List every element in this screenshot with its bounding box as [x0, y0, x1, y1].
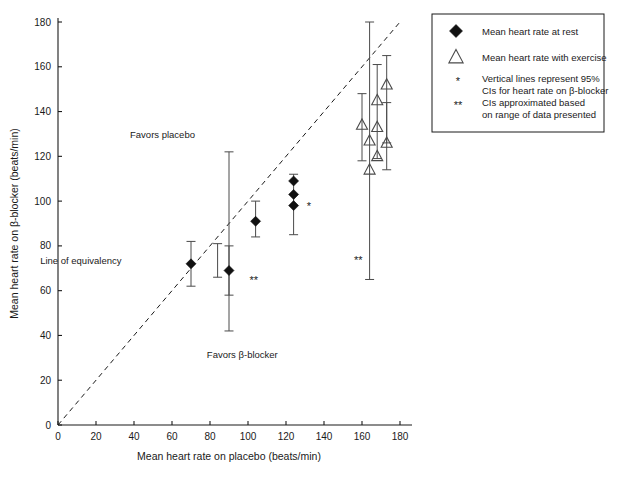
x-tick-label: 140 [316, 431, 333, 442]
y-tick-label: 60 [40, 285, 52, 296]
data-point-rest [186, 259, 196, 269]
scatter-plot: 0204060801001201401601800204060801001201… [0, 0, 617, 477]
legend-label-ci-line2: CIs for heart rate on β-blocker [482, 85, 608, 96]
y-tick-label: 40 [40, 330, 52, 341]
footnote-marker: * [307, 200, 312, 212]
y-tick-label: 120 [34, 151, 51, 162]
x-tick-label: 180 [392, 431, 409, 442]
x-tick-label: 20 [90, 431, 102, 442]
legend-label-ci-line1: Vertical lines represent 95% [482, 73, 600, 84]
y-tick-label: 0 [45, 420, 51, 431]
legend-label-rest: Mean heart rate at rest [482, 26, 578, 37]
x-tick-label: 80 [204, 431, 216, 442]
footnote-marker: ** [354, 254, 363, 266]
data-point-rest [224, 266, 234, 276]
legend-marker-double-star-icon: ** [454, 99, 463, 111]
data-point-rest [289, 176, 299, 186]
x-tick-label: 40 [128, 431, 140, 442]
plot-annotation: Line of equivalency [40, 255, 122, 266]
data-point-rest [251, 216, 261, 226]
data-point-rest [289, 201, 299, 211]
x-axis-title: Mean heart rate on placebo (beats/min) [137, 450, 321, 462]
x-tick-label: 0 [55, 431, 61, 442]
x-tick-label: 160 [354, 431, 371, 442]
legend-label-approx-line1: CIs approximated based [482, 97, 585, 108]
y-tick-label: 80 [40, 240, 52, 251]
legend-marker-triangle-icon [449, 50, 463, 63]
footnote-marker: ** [249, 274, 258, 286]
y-axis-title: Mean heart rate on β-blocker (beats/min) [8, 128, 20, 318]
y-tick-label: 160 [34, 61, 51, 72]
plot-annotation: Favors placebo [130, 129, 195, 140]
y-tick-label: 180 [34, 17, 51, 28]
y-tick-label: 20 [40, 375, 52, 386]
x-tick-label: 60 [166, 431, 178, 442]
legend-label-approx-line2: on range of data presented [482, 109, 596, 120]
legend-marker-diamond-icon [450, 25, 463, 38]
data-point-rest [289, 189, 299, 199]
legend-label-exercise: Mean heart rate with exercise [482, 52, 607, 63]
legend-marker-star-icon: * [456, 75, 461, 87]
y-tick-label: 100 [34, 196, 51, 207]
y-tick-label: 140 [34, 106, 51, 117]
x-tick-label: 100 [240, 431, 257, 442]
chart-container: 0204060801001201401601800204060801001201… [0, 0, 617, 477]
plot-annotation: Favors β-blocker [207, 349, 278, 360]
x-tick-label: 120 [278, 431, 295, 442]
